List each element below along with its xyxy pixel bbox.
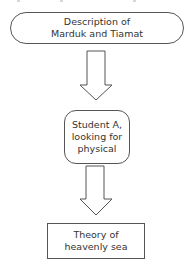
node-label: Theory of heavenly sea	[64, 229, 127, 253]
node-heavenly-sea-theory: Theory of heavenly sea	[47, 223, 145, 259]
